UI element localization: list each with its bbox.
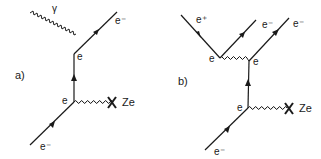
vertex-top-label: e (77, 51, 83, 62)
nucleus-x-icon (285, 103, 293, 114)
panel-label-a: a) (15, 69, 25, 81)
vertex-bottom-label: e (62, 95, 68, 106)
virtual-photon-line (74, 101, 113, 104)
vertex-left-label: e (209, 53, 215, 64)
virtual-photon-line (220, 57, 249, 62)
outgoing-electron-2-label: e⁻ (293, 18, 304, 29)
outgoing-electron-label: e⁻ (115, 15, 126, 26)
photon-line (30, 11, 76, 35)
nucleus-label: Ze (122, 96, 135, 108)
virtual-photon-line (248, 107, 287, 110)
outgoing-electron-1-label: e⁻ (262, 19, 273, 30)
positron-label: e⁺ (196, 14, 207, 25)
outgoing-electron-1-line (220, 20, 256, 58)
incoming-electron-label: e⁻ (214, 146, 225, 157)
panel-label-b: b) (178, 75, 188, 87)
arrow-icon (224, 126, 230, 133)
arrow-icon (71, 74, 77, 81)
arrow-icon (49, 121, 55, 128)
diagram-a: γ e e⁻ a) e Ze e⁻ (15, 3, 135, 152)
feynman-diagrams: γ e e⁻ a) e Ze e⁻ e⁺ e⁻ e (0, 0, 321, 159)
photon-label: γ (52, 3, 57, 14)
arrow-icon (196, 31, 201, 38)
incoming-electron-label: e⁻ (40, 141, 51, 152)
vertex-right-label: e (253, 56, 259, 67)
nucleus-label: Ze (299, 102, 312, 114)
nucleus-x-icon (108, 97, 116, 108)
vertex-bottom-label: e (237, 102, 243, 113)
arrow-icon (245, 79, 251, 86)
diagram-b: e⁺ e⁻ e⁻ e e b) e Ze e⁻ (178, 14, 312, 157)
